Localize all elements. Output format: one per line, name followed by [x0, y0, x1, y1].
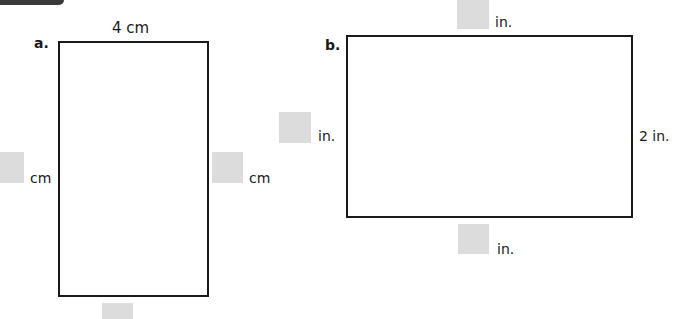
right-side-label: 2 in. [639, 128, 670, 144]
left-unit-label: in. [318, 128, 335, 144]
bottom-answer-box[interactable] [102, 303, 133, 319]
right-answer-box[interactable] [212, 152, 243, 183]
right-unit-label: cm [249, 170, 270, 186]
left-unit-label: cm [30, 170, 51, 186]
problem-letter: a. [34, 35, 49, 51]
section-tab [0, 0, 64, 5]
problem-letter: b. [325, 37, 340, 53]
top-side-label: 4 cm [112, 20, 149, 36]
top-unit-label: in. [495, 14, 512, 30]
left-answer-box[interactable] [0, 152, 24, 183]
rectangle-a [58, 41, 209, 297]
bottom-unit-label: in. [497, 241, 514, 257]
top-answer-box[interactable] [457, 0, 489, 29]
rectangle-b [346, 35, 633, 218]
bottom-answer-box[interactable] [458, 224, 489, 254]
left-answer-box[interactable] [279, 112, 311, 143]
